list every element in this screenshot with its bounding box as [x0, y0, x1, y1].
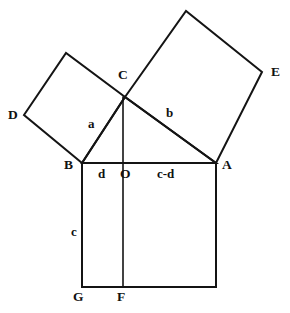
- square-on-side-c: [82, 163, 216, 287]
- geometry-diagram: D C E B O A G F a b c d c-d: [0, 0, 290, 313]
- right-triangle-abc: [82, 97, 216, 163]
- segment-label-d: d: [98, 167, 105, 180]
- square-on-side-a: [24, 53, 125, 163]
- square-on-side-b: [125, 11, 262, 163]
- vertex-label-o: O: [120, 167, 131, 181]
- vertex-label-d: D: [8, 108, 18, 122]
- side-label-b: b: [166, 106, 173, 119]
- geometry-canvas: [0, 0, 290, 313]
- segment-label-c-minus-d: c-d: [157, 167, 174, 180]
- vertex-label-g: G: [73, 290, 84, 304]
- side-label-a: a: [88, 117, 95, 130]
- vertex-label-b: B: [64, 158, 73, 172]
- vertex-label-e: E: [271, 65, 280, 79]
- vertex-label-f: F: [117, 290, 125, 304]
- vertex-label-a: A: [222, 158, 232, 172]
- vertex-label-c: C: [118, 68, 128, 82]
- side-label-c: c: [71, 225, 77, 238]
